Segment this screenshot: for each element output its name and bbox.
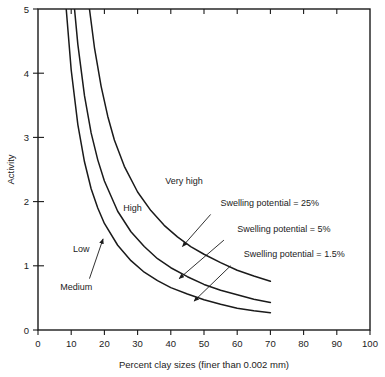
zone-label-2: Low [73,244,90,254]
x-tick-label-0: 0 [35,338,40,349]
y-tick-label-1: 1 [24,260,29,271]
x-tick-label-20: 20 [99,338,110,349]
curve-1 [75,9,271,302]
y-tick-label-3: 3 [24,132,29,143]
x-axis-label: Percent clay sizes (finer than 0.002 mm) [119,359,289,370]
x-tick-label-60: 60 [232,338,243,349]
chart-figure: 0102030405060708090100012345Percent clay… [0,0,385,377]
zone-label-3: Medium [60,282,92,292]
annotation-leader-1 [179,240,224,279]
x-tick-label-90: 90 [332,338,343,349]
annotation-leader-2 [194,266,231,301]
annotation-label-1: Swelling potential = 5% [237,224,330,234]
x-tick-label-80: 80 [298,338,309,349]
y-tick-label-2: 2 [24,196,29,207]
y-axis-label: Activity [5,154,16,184]
medium-leader [89,239,103,279]
x-tick-label-70: 70 [265,338,276,349]
curve-2 [89,9,270,281]
curve-0 [66,9,270,313]
x-tick-label-30: 30 [132,338,143,349]
y-tick-label-4: 4 [24,68,29,79]
annotation-leader-0 [182,214,210,246]
x-tick-label-40: 40 [166,338,177,349]
zone-label-1: High [123,203,142,213]
zone-label-0: Very high [165,176,203,186]
y-tick-label-0: 0 [24,325,29,336]
x-tick-label-100: 100 [362,338,378,349]
x-tick-label-10: 10 [66,338,77,349]
activity-vs-clay-chart: 0102030405060708090100012345Percent clay… [0,0,385,377]
annotation-label-2: Swelling potential = 1.5% [244,249,345,259]
annotation-label-0: Swelling potential = 25% [221,198,319,208]
y-tick-label-5: 5 [24,4,29,15]
x-tick-label-50: 50 [199,338,210,349]
